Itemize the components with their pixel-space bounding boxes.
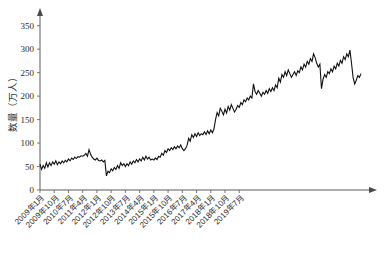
y-tick-label: 350 [21, 21, 35, 31]
y-axis-title: 数量（万人） [7, 72, 18, 132]
line-chart-plot: 050100150200250300350 2009年1月2009年10月201… [0, 0, 384, 256]
y-tick-label: 200 [21, 91, 35, 101]
y-ticks-group: 050100150200250300350 [21, 21, 41, 195]
x-axis-arrow-icon [369, 187, 377, 193]
y-axis-arrow-icon [37, 8, 43, 16]
y-tick-label: 100 [21, 138, 35, 148]
y-tick-label: 150 [21, 115, 35, 125]
y-tick-label: 250 [21, 68, 35, 78]
x-tick-labels-group: 2009年1月2009年10月2010年7月2011年4月2012年1月2012… [12, 192, 245, 229]
y-tick-label: 50 [25, 162, 35, 172]
data-series-group [40, 50, 361, 176]
series-line-path [40, 50, 361, 176]
chart-container: 050100150200250300350 2009年1月2009年10月201… [0, 0, 384, 256]
axes-group [37, 8, 377, 193]
y-tick-label: 0 [30, 185, 35, 195]
y-tick-label: 300 [21, 44, 35, 54]
